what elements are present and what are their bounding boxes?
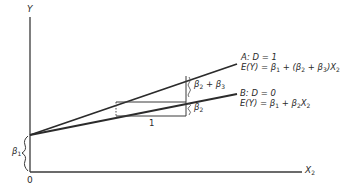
rise-a-sub2: 3 [221,83,225,90]
line-b-eq-p2: + β [279,98,297,108]
line-b-eq-sub3: 2 [307,102,311,109]
line-a-eq-p3: + β [305,62,323,72]
origin-label: 0 [27,176,33,185]
intercept-sub: 1 [17,150,21,157]
rise-b-sub: 2 [199,106,203,113]
intercept-label: β1 [12,147,21,157]
y-axis-label: Y [27,5,33,14]
line-b-eq-prefix: E(Y) = β [240,98,275,108]
rise-b-label: β2 [194,103,203,113]
line-b-equation: E(Y) = β1 + β2X2 [240,99,310,109]
line-a-equation: E(Y) = β1 + (β2 + β3)X2 [241,63,340,73]
line-a-eq-p4: )X [327,62,336,72]
line-a-title: A: D = 1 [241,53,277,62]
line-a-eq-sub4: 2 [336,66,340,73]
rise-a-plus: + β [203,79,221,89]
run-label: 1 [149,119,154,128]
brace-intercept [22,136,28,171]
line-b-title: B: D = 0 [240,89,276,98]
line-a-eq-prefix: E(Y) = β [241,62,276,72]
brace-rise-b [188,103,191,115]
x-axis-label-sub: 2 [311,169,315,176]
line-a-eq-p2: + (β [280,62,301,72]
x-axis-label: X2 [305,166,315,176]
rise-a-label: β2 + β3 [194,80,225,90]
